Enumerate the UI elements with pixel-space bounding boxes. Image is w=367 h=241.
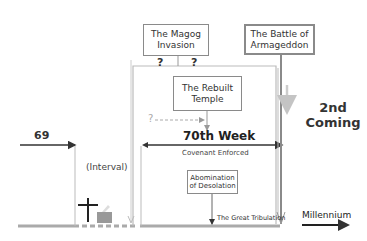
question-mark-3: ? bbox=[148, 113, 153, 124]
seventieth-week-label: 70th Week bbox=[183, 129, 255, 143]
altar-icon bbox=[97, 205, 112, 223]
magog-invasion-box: The Magog Invasion bbox=[143, 24, 209, 56]
armageddon-label: The Battle of Armageddon bbox=[246, 29, 313, 51]
armageddon-box: The Battle of Armageddon bbox=[244, 24, 315, 55]
second-coming-label: 2nd Coming bbox=[303, 100, 363, 130]
sixty-nine-label: 69 bbox=[34, 129, 49, 142]
cross-icon bbox=[78, 198, 98, 222]
great-tribulation-label: The Great Tribulation bbox=[217, 214, 285, 222]
interval-label: (Interval) bbox=[86, 162, 128, 172]
rebuilt-temple-box: The Rebuilt Temple bbox=[173, 76, 242, 111]
abomination-box: Abomination of Desolation bbox=[187, 170, 238, 194]
covenant-label: Covenant Enforced bbox=[182, 149, 249, 157]
second-coming-line1: 2nd bbox=[303, 100, 363, 115]
magog-label: The Magog Invasion bbox=[144, 29, 208, 51]
question-mark-1: ? bbox=[157, 56, 163, 69]
rebuilt-temple-label: The Rebuilt Temple bbox=[174, 83, 241, 105]
second-coming-line2: Coming bbox=[303, 115, 363, 130]
question-mark-2: ? bbox=[191, 56, 197, 69]
abomination-label: Abomination of Desolation bbox=[188, 174, 237, 190]
millennium-label: Millennium bbox=[302, 210, 351, 220]
